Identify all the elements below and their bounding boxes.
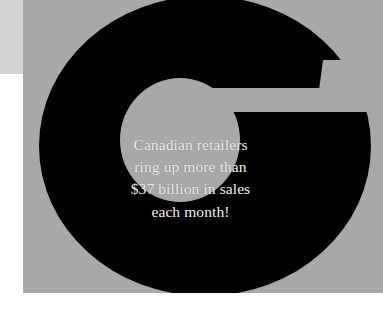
poster-canvas: Canadian retailers ring up more than $37…: [0, 0, 383, 315]
quote-line-2: ring up more than: [98, 156, 283, 178]
gray-background-panel: Canadian retailers ring up more than $37…: [23, 0, 383, 293]
corner-accent-strip: [0, 0, 23, 74]
quote-line-3: $37 billion in sales: [98, 178, 283, 200]
quote-line-4: each month!: [98, 201, 283, 223]
statistic-quote: Canadian retailers ring up more than $37…: [98, 134, 283, 223]
quote-line-1: Canadian retailers: [98, 134, 283, 156]
